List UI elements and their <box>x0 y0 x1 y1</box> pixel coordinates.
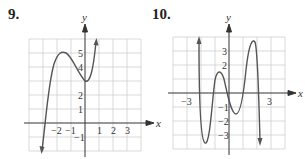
svg-text:2: 2 <box>78 90 83 101</box>
svg-text:2: 2 <box>111 125 116 136</box>
graph-10-x-label: x <box>297 87 303 99</box>
svg-text:3: 3 <box>267 96 272 107</box>
graph-9-y-label: y <box>81 11 87 23</box>
graphs-canvas: x y −2 −1 1 2 3 5 4 2 1 −1 x y −3 3 3 2 <box>0 0 305 159</box>
svg-text:1: 1 <box>97 125 102 136</box>
svg-text:3: 3 <box>222 46 227 57</box>
svg-text:−1: −1 <box>74 132 85 143</box>
svg-text:1: 1 <box>78 104 83 115</box>
graph-10-arrow-bottom <box>258 138 263 146</box>
graph-9-arrow-bottom <box>40 146 45 154</box>
svg-text:−2: −2 <box>51 125 62 136</box>
graph-9-x-label: x <box>155 117 161 129</box>
graph-9-tick-labels: −2 −1 1 2 3 5 4 2 1 −1 <box>51 48 130 143</box>
svg-text:3: 3 <box>125 125 130 136</box>
svg-text:−3: −3 <box>181 96 192 107</box>
svg-text:5: 5 <box>78 48 83 59</box>
svg-text:−1: −1 <box>218 102 229 113</box>
svg-text:−3: −3 <box>218 130 229 141</box>
graph-10-y-label: y <box>225 11 231 23</box>
svg-text:−2: −2 <box>218 116 229 127</box>
svg-text:2: 2 <box>222 60 227 71</box>
